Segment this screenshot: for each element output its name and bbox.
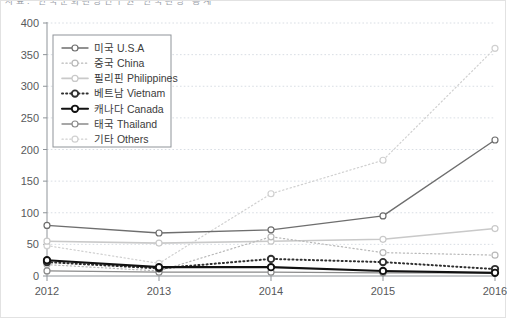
data-point	[44, 222, 50, 228]
legend-marker-icon	[72, 90, 78, 96]
y-axis-tick-label: 350	[21, 49, 39, 61]
data-point	[44, 268, 50, 274]
y-axis-tick-label: 250	[21, 112, 39, 124]
legend-marker-icon	[72, 60, 78, 66]
y-axis-tick-labels: 050100150200250300350400	[21, 17, 39, 282]
data-point	[492, 252, 498, 258]
data-point	[268, 191, 274, 197]
legend-marker-icon	[72, 136, 78, 142]
legend-label: 미국 U.S.A	[94, 42, 144, 54]
legend-label: 캐나다 Canada	[94, 103, 164, 115]
y-axis-tick-label: 100	[21, 207, 39, 219]
x-axis-tick-labels: 20122013201420152016	[35, 285, 507, 297]
data-point	[380, 268, 386, 274]
y-axis-tick-label: 150	[21, 175, 39, 187]
data-point	[380, 259, 386, 265]
legend-marker-icon	[72, 45, 78, 51]
data-point	[492, 45, 498, 51]
legend-label: 기타 Others	[94, 133, 148, 145]
series-u-s-a	[44, 137, 498, 236]
chart-svg: 050100150200250300350400 201220132014201…	[1, 10, 507, 318]
cutoff-caption-text: 자료: 한국문화관광연구원 한국관광 통계	[5, 1, 214, 7]
y-axis-tick-label: 200	[21, 144, 39, 156]
x-axis-tick-label: 2012	[35, 285, 59, 297]
chart-legend[interactable]: 미국 U.S.A중국 China필리핀 Philippines베트남 Vietn…	[53, 35, 178, 147]
data-point	[492, 226, 498, 232]
data-point	[380, 250, 386, 256]
legend-marker-icon	[72, 75, 78, 81]
data-point	[380, 213, 386, 219]
y-axis-tick-label: 0	[33, 270, 39, 282]
legend-label: 베트남 Vietnam	[94, 87, 165, 99]
data-point	[156, 240, 162, 246]
data-point	[380, 236, 386, 242]
series-line	[47, 140, 495, 233]
data-point	[492, 137, 498, 143]
legend-label: 필리핀 Philippines	[94, 72, 178, 84]
data-point	[44, 257, 50, 263]
data-point	[156, 264, 162, 270]
legend-label: 중국 China	[94, 57, 145, 69]
line-chart: 050100150200250300350400 201220132014201…	[1, 10, 507, 318]
data-point	[268, 264, 274, 270]
legend-marker-icon	[72, 106, 78, 112]
x-axis-tick-label: 2015	[371, 285, 395, 297]
x-axis-tick-label: 2013	[147, 285, 171, 297]
y-axis-tick-label: 50	[27, 238, 39, 250]
legend-marker-icon	[72, 121, 78, 127]
x-axis-tick-label: 2016	[483, 285, 507, 297]
data-point	[268, 256, 274, 262]
data-point	[156, 230, 162, 236]
y-axis-tick-label: 400	[21, 17, 39, 29]
data-point	[380, 157, 386, 163]
x-axis-tick-label: 2014	[259, 285, 283, 297]
data-point	[44, 238, 50, 244]
data-point	[268, 234, 274, 240]
legend-label: 태국 Thailand	[94, 118, 157, 130]
cutoff-caption: 자료: 한국문화관광연구원 한국관광 통계	[1, 1, 507, 10]
y-axis-tick-label: 300	[21, 80, 39, 92]
data-point	[268, 227, 274, 233]
data-point	[492, 270, 498, 276]
